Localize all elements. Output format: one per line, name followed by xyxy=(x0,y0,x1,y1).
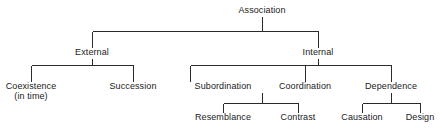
association-tree-diagram: Association External Internal Coexistenc… xyxy=(0,0,448,135)
node-internal: Internal xyxy=(303,47,334,57)
node-succession: Succession xyxy=(109,81,156,91)
node-coexistence-label: Coexistence xyxy=(6,81,57,91)
node-causation: Causation xyxy=(341,112,382,122)
node-external: External xyxy=(75,47,109,57)
node-dependence: Dependence xyxy=(365,81,417,91)
node-association: Association xyxy=(238,5,285,15)
node-coordination: Coordination xyxy=(279,81,331,91)
node-resemblance: Resemblance xyxy=(195,112,251,122)
node-design: Design xyxy=(406,112,435,122)
node-coexistence: Coexistence (in time) xyxy=(6,81,57,101)
node-contrast: Contrast xyxy=(281,112,316,122)
node-subordination: Subordination xyxy=(195,81,252,91)
node-coexistence-sublabel: (in time) xyxy=(6,91,57,101)
